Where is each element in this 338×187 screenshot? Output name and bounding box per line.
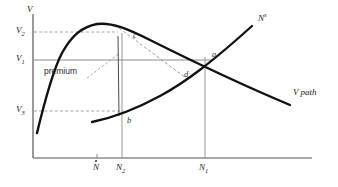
point-label-c: c: [133, 31, 137, 40]
x-tick-n-hat: N: [93, 163, 99, 172]
premium-annotation-label: premium: [44, 67, 77, 76]
diagram-canvas: [0, 0, 338, 187]
point-label-d: d: [184, 70, 188, 79]
v-path-curve: [37, 24, 290, 133]
premium-vertical-segment: [118, 36, 119, 116]
y-tick-v1: V1: [16, 54, 25, 65]
curves-group: [37, 24, 290, 133]
economics-diagram: V V2 V1 V3 N N2 N1 Ns V path a b c d pre…: [0, 0, 338, 187]
y-tick-v3: V3: [16, 105, 25, 116]
x-tick-n2: N2: [116, 163, 125, 174]
guide-lines-group: [34, 25, 212, 158]
point-label-b: b: [127, 116, 131, 125]
labour-supply-curve: [92, 26, 252, 122]
y-axis-label: V: [27, 5, 33, 14]
y-tick-v2: V2: [16, 26, 25, 37]
point-label-a: a: [212, 50, 216, 59]
premium-leader-line: [87, 53, 120, 78]
labour-supply-curve-label: Ns: [258, 12, 267, 23]
x-tick-n1: N1: [199, 163, 208, 174]
v-path-curve-label: V path: [293, 88, 317, 97]
